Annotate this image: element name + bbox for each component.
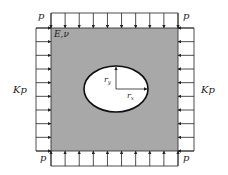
left-arrows <box>36 28 51 151</box>
load-label-bottom-right: p <box>183 152 190 163</box>
load-label-top-right: p <box>183 10 190 21</box>
top-arrows <box>51 13 178 28</box>
load-label-bottom-left: p <box>40 152 47 163</box>
top-load-line <box>51 13 178 28</box>
plate-diagram: E,ν p p p p Kp Kp ry rx <box>0 0 228 175</box>
right-load-line <box>178 28 194 151</box>
material-label: E,ν <box>53 29 69 39</box>
bottom-arrows <box>51 151 178 166</box>
left-load-line <box>36 28 51 151</box>
load-label-top-left: p <box>38 10 45 21</box>
load-label-left: Kp <box>12 84 27 95</box>
right-arrows <box>178 28 194 151</box>
bottom-load-line <box>51 151 178 166</box>
load-label-right: Kp <box>200 84 215 95</box>
